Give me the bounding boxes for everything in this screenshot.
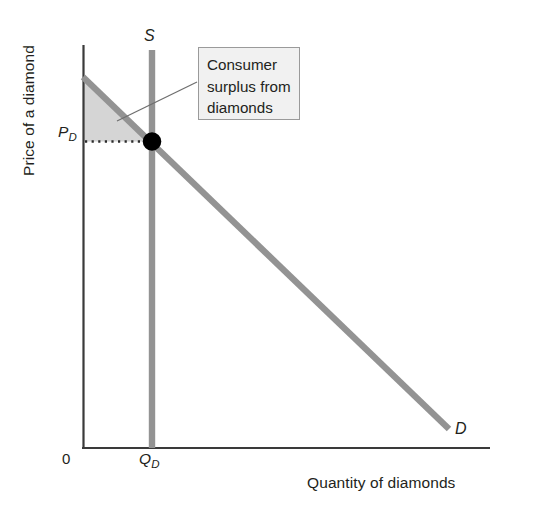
x-axis-title: Quantity of diamonds — [307, 474, 455, 492]
consumer-surplus-callout-text: Consumer surplus from diamonds — [207, 54, 291, 119]
demand-curve-label: D — [455, 420, 467, 439]
demand-curve — [83, 77, 449, 429]
quantity-equilibrium-base: Q — [139, 450, 151, 467]
origin-label: 0 — [62, 450, 70, 468]
quantity-equilibrium-label: QD — [139, 450, 160, 471]
price-equilibrium-subscript: D — [69, 131, 77, 143]
callout-leader-line — [117, 82, 197, 121]
equilibrium-point-dot — [143, 132, 162, 151]
consumer-surplus-diamonds-figure: Price of a diamond Quantity of diamonds … — [0, 0, 534, 517]
supply-curve-label: S — [144, 27, 155, 46]
price-equilibrium-label: PD — [58, 123, 77, 144]
price-equilibrium-base: P — [58, 123, 68, 140]
consumer-surplus-callout-box: Consumer surplus from diamonds — [198, 47, 300, 120]
y-axis-title-text: Price of a diamond — [20, 45, 38, 176]
quantity-equilibrium-subscript: D — [151, 458, 159, 470]
y-axis-title: Price of a diamond — [14, 45, 44, 195]
